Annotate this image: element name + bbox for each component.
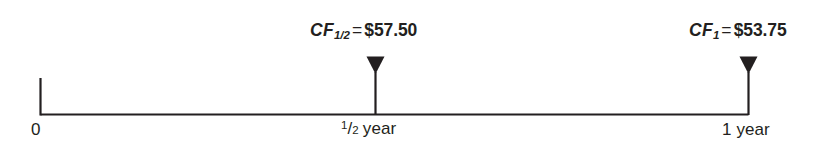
cashflow-subscript-half-year: 1/2 (334, 29, 350, 41)
fraction-denominator: 2 (352, 124, 359, 136)
cashflow-label-one-year: CF1=$53.75 (689, 20, 787, 41)
cashflow-equals-half-year: = (350, 20, 364, 40)
cashflow-label-half-year: CF1/2=$57.50 (310, 20, 417, 41)
cashflow-amount-one-year: $53.75 (734, 20, 787, 40)
cashflow-equals-one-year: = (719, 20, 733, 40)
fraction-numerator: 1 (341, 119, 348, 131)
cashflow-arrowhead-one-year (740, 57, 758, 75)
axis-label-half-year-unit: year (363, 119, 396, 138)
fraction-one-half: 1/2 (341, 119, 359, 138)
cashflow-amount-half-year: $57.50 (364, 20, 417, 40)
axis-label-period-0: 0 (31, 120, 41, 140)
cashflow-symbol-half-year: CF (310, 20, 334, 40)
cashflow-arrowhead-half-year (367, 57, 385, 75)
axis-label-half-year: 1/2year (341, 119, 396, 139)
cashflow-symbol-one-year: CF (689, 20, 713, 40)
axis-label-one-year: 1 year (722, 120, 770, 140)
